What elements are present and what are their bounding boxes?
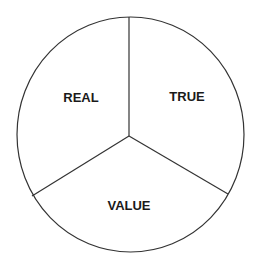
sector-label-value: VALUE — [107, 198, 150, 213]
sector-label-real: REAL — [63, 90, 98, 105]
circle-outline — [17, 17, 244, 252]
divider-right — [129, 136, 228, 194]
pie-diagram: REAL TRUE VALUE — [0, 0, 255, 266]
divider-left — [32, 136, 129, 196]
sector-label-true: TRUE — [169, 89, 205, 104]
